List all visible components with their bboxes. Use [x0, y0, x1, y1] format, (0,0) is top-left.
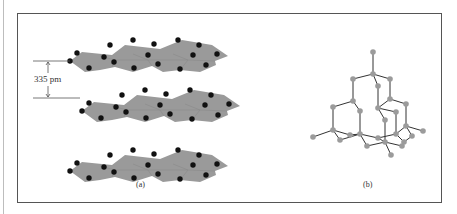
graphite-layer-middle	[79, 87, 240, 122]
panel-b-label: (b)	[363, 180, 372, 189]
panel-a-label: (a)	[136, 180, 145, 189]
layer-spacing-label: 335 pm	[33, 74, 62, 84]
graphite-layer-top	[67, 37, 228, 72]
figure-canvas	[0, 0, 457, 214]
diamond-lattice	[310, 49, 426, 158]
graphite-layer-bottom	[67, 147, 228, 182]
